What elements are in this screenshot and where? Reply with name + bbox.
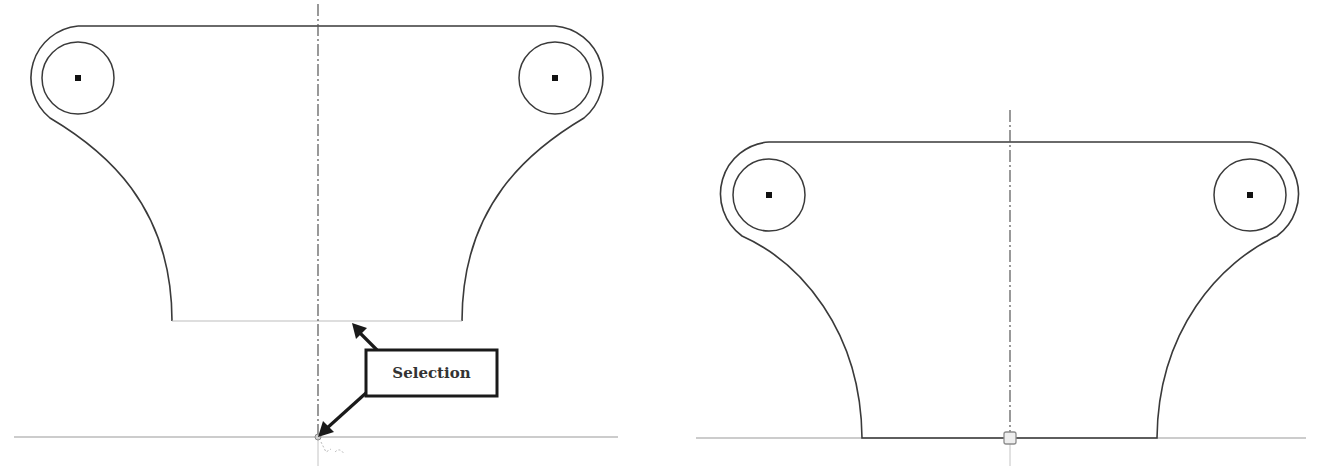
selection-callout-label: Selection	[392, 364, 470, 382]
hole-center-point-left	[766, 192, 772, 198]
cursor-icon	[321, 442, 344, 454]
coincident-snap-marker[interactable]	[1004, 432, 1016, 444]
cad-figure: Selection	[0, 0, 1320, 473]
right-view	[696, 110, 1306, 466]
left-view: Selection	[14, 4, 618, 466]
callout-arrow-bottom	[326, 393, 366, 429]
hole-center-point-left	[75, 75, 81, 81]
hole-center-point-right	[1247, 192, 1253, 198]
bracket-outline	[31, 26, 603, 321]
hole-center-point-right	[552, 75, 558, 81]
